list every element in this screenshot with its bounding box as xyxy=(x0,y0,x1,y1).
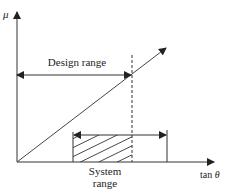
x-axis-label-theta: θ xyxy=(215,169,220,180)
x-axis-label: tan θ xyxy=(200,169,220,181)
x-axis-label-prefix: tan xyxy=(200,169,215,180)
system-range-label-line2: range xyxy=(85,177,125,189)
y-axis-label: μ xyxy=(3,8,9,20)
design-range-label: Design range xyxy=(42,56,112,68)
system-range-label-line1: System xyxy=(85,165,125,177)
system-range-label: System range xyxy=(85,165,125,189)
